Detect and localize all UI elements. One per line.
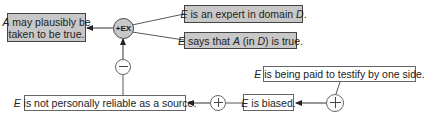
paid-node: E is being paid to testify by one side. — [263, 66, 416, 82]
premise-says: E says that A (in D) is true. — [184, 32, 297, 49]
con-attack-node — [115, 59, 131, 75]
conclusion-node: A may plausibly be taken to be true. — [7, 13, 86, 42]
conclusion-line1: A may plausibly be — [2, 16, 90, 28]
pro-support-node-2 — [326, 94, 344, 112]
minus-icon — [116, 59, 130, 75]
conclusion-line2: taken to be true. — [9, 28, 85, 40]
plus-icon — [211, 95, 225, 111]
expert-opinion-scheme-node: +EX — [113, 18, 134, 39]
premise-expert: E is an expert in domain D. — [184, 5, 303, 23]
not-reliable-node: E is not personally reliable as a source… — [24, 95, 186, 111]
biased-node: E is biased. — [243, 94, 294, 111]
pro-support-node-1 — [210, 95, 226, 111]
plus-icon — [327, 94, 343, 112]
